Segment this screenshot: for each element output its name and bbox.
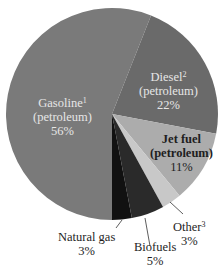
label-diesel: Diesel2 (petroleum) 22% (139, 70, 198, 112)
gasoline-pct: 56% (51, 124, 74, 138)
biofuels-name: Biofuels (134, 240, 176, 254)
gasoline-sub: (petroleum) (33, 110, 92, 124)
natgas-name: Natural gas (58, 230, 115, 244)
leader-other (170, 202, 183, 214)
other-name: Other (173, 220, 201, 234)
diesel-pct: 22% (157, 98, 180, 112)
other-pct: 3% (181, 234, 198, 248)
label-other: Other3 3% (173, 220, 205, 248)
label-biofuels: Biofuels 5% (134, 240, 176, 268)
diesel-sub: (petroleum) (139, 84, 198, 98)
gasoline-footnote: 1 (83, 96, 87, 105)
label-jet-fuel: Jet fuel (petroleum) 11% (150, 132, 213, 174)
biofuels-pct: 5% (147, 254, 164, 268)
label-gasoline: Gasoline1 (petroleum) 56% (33, 96, 92, 138)
diesel-name: Diesel (151, 70, 183, 84)
jet-pct: 11% (170, 160, 192, 174)
jet-name: Jet fuel (162, 132, 201, 146)
label-natural-gas: Natural gas 3% (58, 230, 115, 258)
gasoline-name: Gasoline (38, 96, 82, 110)
leader-natgas (116, 220, 122, 228)
other-footnote: 3 (201, 220, 205, 229)
diesel-footnote: 2 (182, 70, 186, 79)
natgas-pct: 3% (78, 244, 95, 258)
jet-sub: (petroleum) (150, 146, 213, 160)
